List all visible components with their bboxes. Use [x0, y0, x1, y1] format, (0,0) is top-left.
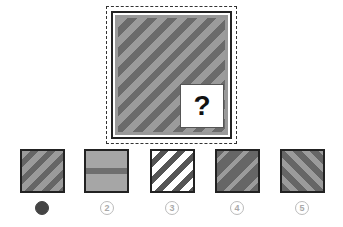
option-5-label[interactable]: 5	[295, 201, 309, 215]
option-3-tile[interactable]	[150, 149, 195, 193]
option-3-label[interactable]: 3	[165, 201, 179, 215]
missing-piece-box: ?	[180, 84, 224, 128]
option-2-number: 2	[104, 203, 109, 213]
option-4-tile[interactable]	[215, 149, 260, 193]
question-mark: ?	[193, 90, 210, 122]
option-4-number: 4	[234, 203, 239, 213]
option-1-label[interactable]: 1	[35, 201, 49, 215]
option-5-number: 5	[299, 203, 304, 213]
option-5-tile[interactable]	[280, 149, 325, 193]
option-2-label[interactable]: 2	[100, 201, 114, 215]
option-1-tile[interactable]	[20, 149, 65, 193]
option-2-tile[interactable]	[84, 149, 129, 193]
option-4-label[interactable]: 4	[230, 201, 244, 215]
option-3-number: 3	[169, 203, 174, 213]
option-1-number: 1	[39, 203, 44, 213]
